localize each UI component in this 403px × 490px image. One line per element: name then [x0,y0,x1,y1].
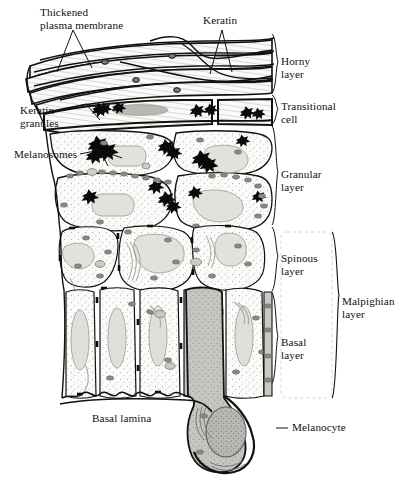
label-basal-layer: Basal layer [281,336,306,361]
epidermis-diagram: Thickened plasma membrane Keratin Kerati… [0,0,403,490]
label-basal-lamina: Basal lamina [92,412,151,425]
label-malpighian-layer: Malpighian layer [342,295,395,320]
label-spinous-layer: Spinous layer [281,252,318,277]
label-horny-layer: Horny layer [281,55,310,80]
diagram-artwork [0,0,403,490]
granular-layer-cells [50,131,272,231]
label-thickened-plasma-membrane: Thickened plasma membrane [40,6,123,31]
label-melanocyte: Melanocyte [292,421,346,434]
label-keratin: Keratin [203,14,237,27]
label-transitional-cell: Transitional cell [281,100,336,125]
basal-layer-cells [66,288,266,399]
label-melanosomes: Melanosomes [14,148,77,161]
label-keratin-granules: Keratin granules [20,104,59,129]
label-granular-layer: Granular layer [281,168,322,193]
